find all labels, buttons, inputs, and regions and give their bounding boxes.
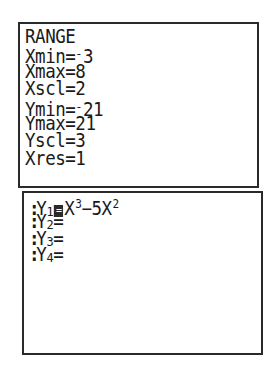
range-row-xscl[interactable]: Xscl=2 [25, 80, 238, 97]
function-marker: : [29, 246, 34, 263]
equals-toggle[interactable]: = [53, 243, 63, 265]
function-row-y4[interactable]: :Y4= [29, 246, 242, 263]
range-screen: RANGE Xmin=-3 Xmax=8 Xscl=2 Ymin=-21 Yma… [18, 22, 259, 188]
range-label: Xscl [25, 77, 65, 99]
y-equals-screen: :Y1=X3−5X2 :Y2= :Y3= :Y4= [22, 191, 263, 355]
range-title: RANGE [25, 28, 238, 45]
range-label: Xres [25, 147, 65, 169]
range-value[interactable]: 2 [75, 77, 85, 99]
range-value[interactable]: 1 [75, 147, 85, 169]
range-row-xres[interactable]: Xres=1 [25, 150, 238, 167]
